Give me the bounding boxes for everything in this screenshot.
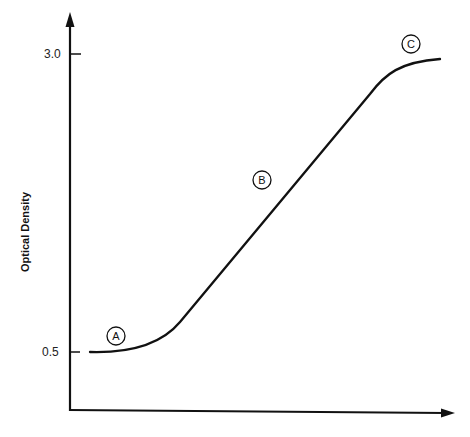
region-a-label: A [112,330,120,342]
y-tick-label-low: 0.5 [42,345,59,359]
region-c-label: C [407,38,415,50]
region-b-marker: B [253,171,271,189]
y-axis-title: Optical Density [19,191,31,272]
region-a-marker: A [107,327,125,345]
x-axis-arrow-icon [441,409,455,418]
characteristic-curve-line [90,59,440,352]
characteristic-curve-chart: 3.0 0.5 Optical Density A B C [0,0,470,437]
region-b-label: B [258,174,265,186]
y-tick-label-high: 3.0 [44,47,61,61]
region-c-marker: C [402,35,420,53]
x-axis [69,409,455,418]
y-axis [66,12,75,411]
y-axis-arrow-icon [66,12,75,27]
